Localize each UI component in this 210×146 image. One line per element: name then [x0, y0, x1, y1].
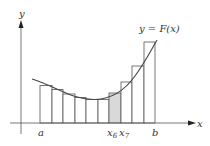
bar: [75, 98, 86, 124]
bar: [121, 82, 132, 123]
bar: [132, 66, 144, 123]
bar: [98, 100, 109, 124]
bar: [52, 90, 63, 124]
diagram-canvas: y x a x6 x7 b y = F(x): [0, 0, 210, 146]
bar: [63, 94, 75, 123]
tick-label-x7: x7: [119, 127, 130, 140]
tick-label-b: b: [152, 127, 158, 138]
bar: [40, 86, 52, 124]
bars: [40, 42, 155, 123]
highlighted-bar: [109, 93, 121, 123]
y-axis-label: y: [18, 8, 25, 19]
x-axis-label: x: [197, 118, 203, 129]
tick-label-a: a: [38, 127, 44, 138]
bar: [86, 100, 98, 124]
tick-label-x6: x6: [107, 127, 118, 140]
x-axis-arrow-icon: [188, 121, 196, 126]
y-axis-arrow-icon: [19, 20, 24, 28]
riemann-sum-figure: y x a x6 x7 b y = F(x): [0, 0, 210, 146]
curve-label: y = F(x): [138, 23, 180, 34]
